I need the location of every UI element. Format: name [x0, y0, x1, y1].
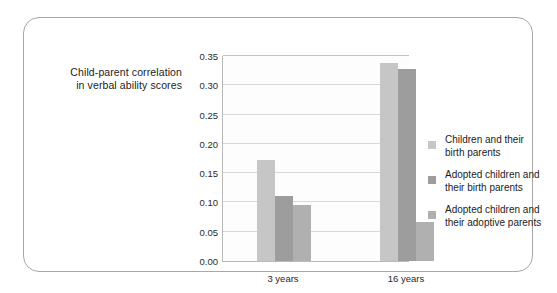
y-axis-title: Child-parent correlation in verbal abili…: [34, 66, 182, 92]
y-axis-title-line1: Child-parent correlation: [70, 66, 182, 78]
legend-label-line2: their adoptive parents: [445, 216, 557, 229]
y-tick-label: 0.00: [187, 256, 218, 267]
y-axis-tick-labels: 0.350.300.250.200.150.100.050.00: [187, 48, 218, 261]
y-tick-label: 0.10: [187, 197, 218, 208]
legend-swatch: [428, 211, 436, 219]
x-category-label: 16 years: [388, 273, 424, 284]
legend-label-line1: Adopted children and: [445, 203, 557, 216]
bar: [398, 69, 416, 261]
y-tick-label: 0.05: [187, 226, 218, 237]
plot-region: 0.350.300.250.200.150.100.050.00 3 years…: [187, 48, 427, 288]
y-tick-label: 0.35: [187, 51, 218, 62]
legend-item[interactable]: Adopted children andtheir adoptive paren…: [428, 203, 557, 229]
bars-layer: [223, 56, 409, 261]
bar: [257, 160, 275, 261]
y-tick-label: 0.30: [187, 80, 218, 91]
figure-frame: Child-parent correlation in verbal abili…: [23, 17, 533, 272]
bar: [293, 205, 311, 261]
y-tick-label: 0.15: [187, 168, 218, 179]
legend-swatch: [428, 141, 436, 149]
y-tick-label: 0.20: [187, 138, 218, 149]
legend: Children and theirbirth parentsAdopted c…: [428, 133, 557, 238]
legend-item[interactable]: Adopted children andtheir birth parents: [428, 168, 557, 194]
bar: [275, 196, 293, 261]
y-tick-label: 0.25: [187, 109, 218, 120]
legend-label-line1: Children and their: [445, 133, 557, 146]
bar: [380, 63, 398, 261]
legend-label-line1: Adopted children and: [445, 168, 557, 181]
x-category-label: 3 years: [267, 273, 298, 284]
legend-label-line2: their birth parents: [445, 181, 557, 194]
legend-swatch: [428, 176, 436, 184]
y-axis-title-line2: in verbal ability scores: [34, 79, 182, 92]
plot-area: [222, 56, 409, 262]
legend-label-line2: birth parents: [445, 146, 557, 159]
legend-item[interactable]: Children and theirbirth parents: [428, 133, 557, 159]
